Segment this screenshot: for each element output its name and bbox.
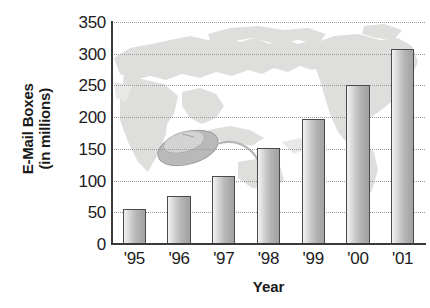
y-axis-tick-label: 150 <box>58 140 106 157</box>
y-axis-tick-labels: 050100150200250300350 <box>58 22 106 244</box>
bar <box>167 196 190 244</box>
y-axis-tick-label: 100 <box>58 172 106 189</box>
x-axis-line <box>111 243 426 245</box>
y-axis-tick-label: 50 <box>58 204 106 221</box>
y-axis-title-line-1: E-Mail Boxes <box>20 14 37 244</box>
y-axis-line <box>111 21 113 245</box>
y-axis-tick-label: 250 <box>58 77 106 94</box>
x-axis-tick-label: '00 <box>347 249 368 269</box>
y-axis-tick-label: 300 <box>58 45 106 62</box>
x-axis-tick-label: '97 <box>213 249 234 269</box>
bar <box>302 119 325 244</box>
y-axis-title-line-2: (in millions) <box>37 14 54 244</box>
x-axis-tick-label: '99 <box>303 249 324 269</box>
x-axis-tick-labels: '95'96'97'98'99'00'01 <box>112 249 425 275</box>
x-axis-tick-label: '98 <box>258 249 279 269</box>
y-axis-tick-label: 200 <box>58 109 106 126</box>
bar <box>391 49 414 244</box>
bars-layer <box>112 22 425 244</box>
plot-area <box>112 22 425 244</box>
x-axis-tick-label: '95 <box>124 249 145 269</box>
bar <box>257 148 280 244</box>
y-axis-title: E-Mail Boxes (in millions) <box>20 14 54 244</box>
y-axis-tick-label: 0 <box>58 236 106 253</box>
bar <box>123 209 146 244</box>
bar-chart-figure: E-Mail Boxes (in millions) 0501001502002… <box>0 0 430 308</box>
bar <box>346 85 369 244</box>
y-axis-tick-label: 350 <box>58 14 106 31</box>
x-axis-tick-label: '01 <box>392 249 413 269</box>
bar <box>212 176 235 244</box>
x-axis-tick-label: '96 <box>168 249 189 269</box>
x-axis-title: Year <box>112 278 425 295</box>
